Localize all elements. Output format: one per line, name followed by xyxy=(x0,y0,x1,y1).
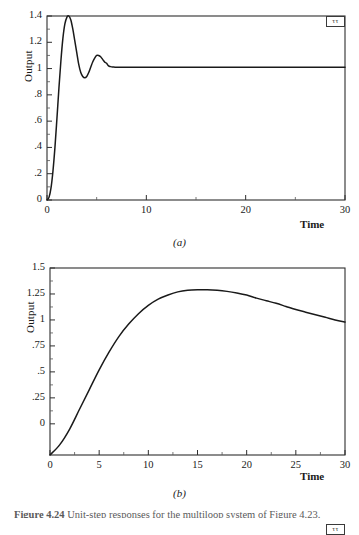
legend-symbol-b: ττ xyxy=(332,526,339,533)
y-tick-label: 1.2 xyxy=(29,35,42,46)
x-tick-label: 25 xyxy=(276,459,316,470)
chart-b-svg xyxy=(0,255,359,485)
x-axis-title-a: Time xyxy=(300,218,324,230)
x-tick-label: 30 xyxy=(325,204,359,215)
y-tick-label: .5 xyxy=(37,365,45,376)
data-series-line xyxy=(47,16,345,200)
y-axis-title-a: Output xyxy=(22,50,34,82)
plot-area-b xyxy=(0,255,359,485)
x-tick-label: 5 xyxy=(79,459,119,470)
x-tick-label: 30 xyxy=(325,459,359,470)
x-tick-label: 10 xyxy=(126,204,166,215)
legend-box-a[interactable]: ττ xyxy=(326,16,345,27)
y-tick-label: .25 xyxy=(32,391,45,402)
x-tick-label: 15 xyxy=(178,459,218,470)
figure-caption-text: Unit-step responses for the multiloop sy… xyxy=(67,509,320,518)
plot-frame xyxy=(47,16,345,200)
figure-caption: Figure 4.24 Unit-step responses for the … xyxy=(14,508,354,518)
figure-panel-a: Output Time ττ (a) 0.2.4.6.811.21.401020… xyxy=(0,0,359,255)
y-tick-label: .6 xyxy=(34,114,42,125)
y-tick-label: 1 xyxy=(37,62,42,73)
x-tick-label: 0 xyxy=(27,204,67,215)
y-tick-label: 1 xyxy=(40,313,45,324)
legend-box-b[interactable]: ττ xyxy=(326,524,345,535)
x-tick-label: 0 xyxy=(30,459,70,470)
subfigure-label-a: (a) xyxy=(0,236,359,248)
y-axis-title-b: Output xyxy=(24,301,36,333)
y-tick-label: 0 xyxy=(40,417,45,428)
x-tick-label: 10 xyxy=(128,459,168,470)
plot-frame xyxy=(50,268,345,455)
y-tick-label: .4 xyxy=(34,140,42,151)
y-tick-label: 1.4 xyxy=(29,9,42,20)
y-tick-label: .2 xyxy=(34,167,42,178)
x-tick-label: 20 xyxy=(226,204,266,215)
figure-caption-label: Figure 4.24 xyxy=(14,509,65,518)
x-axis-title-b: Time xyxy=(300,470,324,482)
y-tick-label: .75 xyxy=(32,339,45,350)
y-tick-label: 1.25 xyxy=(27,287,45,298)
x-tick-label: 20 xyxy=(227,459,267,470)
y-tick-label: 0 xyxy=(37,193,42,204)
y-tick-label: .8 xyxy=(34,88,42,99)
figure-panel-b: Output Time ττ (b) 0.25.5.7511.251.50510… xyxy=(0,255,359,503)
legend-symbol-a: ττ xyxy=(332,18,339,25)
chart-a-svg xyxy=(0,0,359,235)
y-tick-label: 1.5 xyxy=(32,261,45,272)
plot-area-a xyxy=(0,0,359,235)
subfigure-label-b: (b) xyxy=(0,487,359,499)
data-series-line xyxy=(50,290,345,455)
